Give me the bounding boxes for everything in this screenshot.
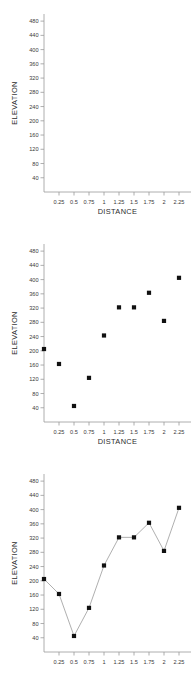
x-tick-label: 1.5 bbox=[130, 199, 138, 205]
x-tick-label: 0.25 bbox=[54, 429, 65, 435]
chart-panel-top: 40801201602002402803203604004404800.250.… bbox=[0, 0, 196, 230]
x-tick-label: 2 bbox=[162, 199, 165, 205]
x-axis-title: DISTANCE bbox=[98, 437, 138, 446]
y-tick-label: 80 bbox=[32, 161, 38, 167]
y-axis-title: ELEVATION bbox=[10, 311, 19, 355]
y-tick-label: 160 bbox=[29, 362, 38, 368]
x-tick-label: 1.5 bbox=[130, 659, 138, 665]
y-tick-label: 240 bbox=[29, 334, 38, 340]
x-tick-label: 0.5 bbox=[70, 659, 78, 665]
x-tick-label: 1.75 bbox=[144, 429, 155, 435]
y-tick-label: 240 bbox=[29, 564, 38, 570]
x-tick-label: 0.5 bbox=[70, 199, 78, 205]
data-point-marker bbox=[177, 506, 181, 510]
data-point-marker bbox=[57, 362, 61, 366]
y-tick-label: 120 bbox=[29, 146, 38, 152]
x-tick-label: 0.75 bbox=[84, 659, 95, 665]
y-tick-label: 360 bbox=[29, 61, 38, 67]
x-tick-label: 2.25 bbox=[174, 429, 185, 435]
y-tick-label: 480 bbox=[29, 248, 38, 254]
data-point-marker bbox=[102, 333, 106, 337]
y-tick-label: 40 bbox=[32, 635, 38, 641]
y-tick-label: 80 bbox=[32, 391, 38, 397]
y-tick-label: 160 bbox=[29, 592, 38, 598]
y-tick-label: 200 bbox=[29, 118, 38, 124]
chart-panel-middle: 40801201602002402803203604004404800.250.… bbox=[0, 230, 196, 460]
x-tick-label: 1.25 bbox=[114, 199, 125, 205]
data-point-marker bbox=[132, 305, 136, 309]
x-axis-title: DISTANCE bbox=[98, 207, 138, 216]
x-tick-label: 0.25 bbox=[54, 199, 65, 205]
y-tick-label: 200 bbox=[29, 578, 38, 584]
data-point-marker bbox=[102, 563, 106, 567]
y-tick-label: 280 bbox=[29, 89, 38, 95]
data-point-marker bbox=[132, 535, 136, 539]
data-point-marker bbox=[177, 276, 181, 280]
x-tick-label: 0.75 bbox=[84, 199, 95, 205]
figure-panel-stack: 40801201602002402803203604004404800.250.… bbox=[0, 0, 196, 677]
x-tick-label: 1 bbox=[102, 199, 105, 205]
chart-panel-bottom: 40801201602002402803203604004404800.250.… bbox=[0, 460, 196, 677]
data-point-marker bbox=[147, 291, 151, 295]
y-tick-label: 360 bbox=[29, 291, 38, 297]
data-point-marker bbox=[87, 376, 91, 380]
y-tick-label: 120 bbox=[29, 376, 38, 382]
data-point-marker bbox=[42, 577, 46, 581]
y-tick-label: 480 bbox=[29, 18, 38, 24]
x-tick-label: 2.25 bbox=[174, 199, 185, 205]
x-tick-label: 1.75 bbox=[144, 659, 155, 665]
x-tick-label: 2.25 bbox=[174, 659, 185, 665]
x-tick-label: 1.25 bbox=[114, 659, 125, 665]
y-tick-label: 400 bbox=[29, 277, 38, 283]
y-tick-label: 440 bbox=[29, 492, 38, 498]
data-point-marker bbox=[72, 634, 76, 638]
y-tick-label: 400 bbox=[29, 507, 38, 513]
x-tick-label: 2 bbox=[162, 429, 165, 435]
y-tick-label: 480 bbox=[29, 478, 38, 484]
data-point-marker bbox=[162, 319, 166, 323]
y-tick-label: 400 bbox=[29, 47, 38, 53]
x-tick-label: 1 bbox=[102, 659, 105, 665]
x-tick-label: 1.25 bbox=[114, 429, 125, 435]
x-tick-label: 2 bbox=[162, 659, 165, 665]
y-tick-label: 240 bbox=[29, 104, 38, 110]
y-tick-label: 280 bbox=[29, 549, 38, 555]
y-tick-label: 320 bbox=[29, 75, 38, 81]
x-tick-label: 0.25 bbox=[54, 659, 65, 665]
data-point-marker bbox=[147, 521, 151, 525]
y-tick-label: 320 bbox=[29, 305, 38, 311]
y-tick-label: 40 bbox=[32, 405, 38, 411]
y-axis-title: ELEVATION bbox=[10, 81, 19, 125]
y-tick-label: 160 bbox=[29, 132, 38, 138]
y-tick-label: 320 bbox=[29, 535, 38, 541]
data-point-marker bbox=[162, 549, 166, 553]
y-tick-label: 200 bbox=[29, 348, 38, 354]
axis-spines bbox=[44, 14, 191, 192]
y-tick-label: 440 bbox=[29, 262, 38, 268]
y-tick-label: 80 bbox=[32, 621, 38, 627]
y-tick-label: 280 bbox=[29, 319, 38, 325]
data-point-marker bbox=[72, 404, 76, 408]
data-point-marker bbox=[42, 347, 46, 351]
x-tick-label: 1.5 bbox=[130, 429, 138, 435]
axis-spines bbox=[44, 474, 191, 652]
y-tick-label: 440 bbox=[29, 32, 38, 38]
x-tick-label: 0.75 bbox=[84, 429, 95, 435]
y-axis-title: ELEVATION bbox=[10, 541, 19, 585]
data-point-marker bbox=[117, 535, 121, 539]
y-tick-label: 360 bbox=[29, 521, 38, 527]
axis-spines bbox=[44, 244, 191, 422]
y-tick-label: 40 bbox=[32, 175, 38, 181]
x-tick-label: 1 bbox=[102, 429, 105, 435]
data-point-marker bbox=[87, 606, 91, 610]
y-tick-label: 120 bbox=[29, 606, 38, 612]
x-tick-label: 1.75 bbox=[144, 199, 155, 205]
data-point-marker bbox=[57, 592, 61, 596]
series-line bbox=[44, 508, 179, 636]
x-tick-label: 0.5 bbox=[70, 429, 78, 435]
data-point-marker bbox=[117, 305, 121, 309]
